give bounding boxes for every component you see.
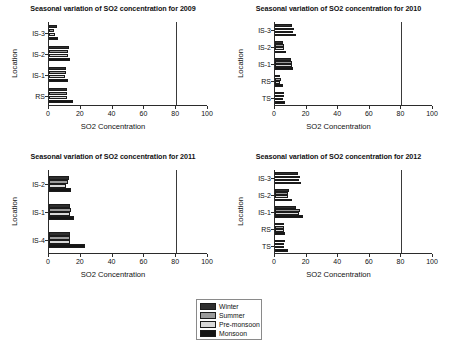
x-tick-label: 20 [302, 110, 310, 117]
bar [49, 208, 71, 211]
bar [275, 84, 283, 87]
chart-panel: Seasonal variation of SO2 concentration … [0, 4, 226, 150]
y-tick-label: IS-3 [258, 175, 271, 182]
x-tick-mark [306, 254, 307, 257]
bar-group [275, 56, 432, 73]
x-tick-label: 40 [108, 110, 116, 117]
x-tick-mark [112, 106, 113, 109]
x-tick-mark [274, 254, 275, 257]
y-tick-mark [271, 178, 274, 179]
y-tick-label: IS-3 [32, 29, 45, 36]
bar-group [275, 22, 432, 39]
chart-title: Seasonal variation of SO2 concentration … [226, 152, 451, 161]
legend-swatch-icon [200, 321, 216, 328]
bar [49, 232, 70, 235]
bar-group [275, 237, 432, 254]
x-tick-mark [337, 106, 338, 109]
x-tick-label: 100 [201, 258, 213, 265]
bar-group [49, 85, 207, 106]
chart-title: Seasonal variation of SO2 concentration … [0, 4, 226, 13]
x-tick-label: 100 [201, 110, 213, 117]
y-tick-label: IS-2 [258, 192, 271, 199]
plot-area [274, 170, 432, 254]
y-axis-ticklabels: IS-3IS-2IS-1RS [0, 22, 45, 106]
bar [49, 96, 67, 99]
y-tick-mark [45, 184, 48, 185]
x-tick-label: 20 [76, 110, 84, 117]
bar [49, 180, 68, 183]
bar [49, 50, 68, 53]
x-tick-mark [432, 106, 433, 109]
y-tick-mark [45, 54, 48, 55]
x-tick-label: 100 [426, 258, 438, 265]
y-tick-mark [271, 212, 274, 213]
legend-item-label: Monsoon [219, 329, 247, 338]
y-tick-mark [271, 195, 274, 196]
y-tick-label: IS-1 [258, 61, 271, 68]
x-tick-mark [48, 106, 49, 109]
bar-group [49, 198, 207, 226]
x-axis-label: SO2 Concentration [0, 122, 226, 131]
bar-collection [49, 22, 207, 105]
y-axis-ticklabels: IS-2IS-1IS-4 [0, 170, 45, 254]
bar-collection [275, 170, 432, 253]
chart-panel: Seasonal variation of SO2 concentration … [226, 4, 451, 150]
y-tick-mark [271, 64, 274, 65]
bar [49, 79, 68, 82]
bar [275, 67, 293, 70]
x-tick-mark [274, 106, 275, 109]
x-tick-label: 0 [272, 258, 276, 265]
bar-group [275, 72, 432, 89]
bar [275, 249, 288, 252]
bar-group [49, 22, 207, 43]
y-tick-label: IS-1 [32, 209, 45, 216]
y-tick-mark [271, 98, 274, 99]
x-tick-label: 40 [108, 258, 116, 265]
bar [49, 67, 66, 70]
x-tick-label: 80 [396, 258, 404, 265]
x-tick-mark [207, 254, 208, 257]
x-tick-mark [400, 106, 401, 109]
bar [49, 92, 67, 95]
season-legend: WinterSummerPre-monsoonMonsoon [196, 299, 262, 340]
bar [49, 46, 69, 49]
x-tick-mark [80, 106, 81, 109]
x-tick-mark [369, 254, 370, 257]
y-tick-mark [271, 246, 274, 247]
legend-item: Pre-monsoon [200, 320, 258, 329]
bar-group [275, 39, 432, 56]
bar [49, 71, 66, 74]
bar [49, 188, 71, 191]
x-axis-label: SO2 Concentration [226, 270, 451, 279]
bar [49, 176, 69, 179]
bar [49, 100, 73, 103]
x-tick-mark [432, 254, 433, 257]
x-tick-mark [400, 254, 401, 257]
bar [49, 212, 70, 215]
y-tick-mark [45, 240, 48, 241]
x-tick-label: 0 [272, 110, 276, 117]
bar [275, 232, 285, 235]
bar [49, 204, 70, 207]
y-tick-label: RS [261, 225, 271, 232]
y-tick-label: IS-2 [32, 50, 45, 57]
x-tick-mark [337, 254, 338, 257]
y-tick-label: TS [262, 94, 271, 101]
y-tick-mark [45, 96, 48, 97]
y-axis-label: Location [236, 22, 245, 106]
bar-group [275, 89, 432, 106]
y-axis-label: Location [10, 170, 19, 254]
bar [49, 240, 70, 243]
y-tick-mark [45, 75, 48, 76]
legend-swatch-icon [200, 330, 216, 337]
legend-swatch-icon [200, 303, 216, 310]
x-tick-label: 80 [171, 258, 179, 265]
bar [275, 199, 292, 202]
y-tick-label: IS-4 [32, 237, 45, 244]
y-tick-mark [271, 81, 274, 82]
y-tick-mark [271, 30, 274, 31]
y-tick-label: TS [262, 242, 271, 249]
bar [49, 184, 66, 187]
x-tick-label: 60 [365, 258, 373, 265]
bar [49, 29, 54, 32]
